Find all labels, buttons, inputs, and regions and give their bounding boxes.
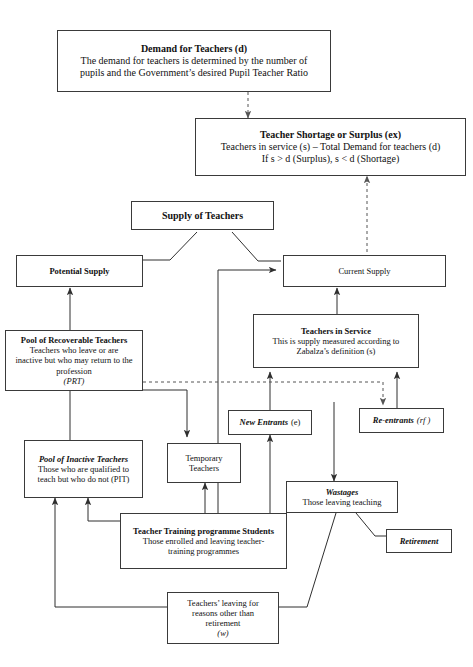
retirement-title: Retirement — [400, 536, 439, 546]
new-entrants-title: New Entrants — [240, 417, 288, 427]
box-potential-supply: Potential Supply — [16, 255, 143, 287]
current-supply-title: Current Supply — [338, 266, 390, 276]
teacher-training-title: Teacher Training programme Students — [133, 526, 274, 536]
pit-line-1: Those who are qualified to — [38, 464, 129, 474]
connector-prt-to-re-entrants — [143, 382, 383, 405]
teachers-in-service-line-1: This is supply measured according to — [273, 336, 400, 346]
box-retirement: Retirement — [386, 529, 452, 553]
re-entrants-symbol: (rf ) — [417, 415, 430, 425]
connector-supply-to-current — [232, 232, 281, 261]
connector-prt-to-temporary — [143, 390, 187, 437]
diagram-canvas: Demand for Teachers (d) The demand for t… — [0, 0, 473, 667]
box-teacher-training-programme-students: Teacher Training programme Students Thos… — [120, 513, 287, 569]
connector-training-to-pit — [88, 498, 120, 521]
wastages-title: Wastages — [326, 487, 358, 497]
leaving-other-line-1: Teachers’ leaving for — [187, 598, 258, 608]
box-temporary-teachers: Temporary Teachers — [167, 443, 241, 483]
box-teachers-in-service: Teachers in Service This is supply measu… — [253, 314, 419, 368]
demand-title: Demand for Teachers (d) — [141, 43, 247, 55]
shortage-line-2: If s > d (Surplus), s < d (Shortage) — [262, 153, 400, 165]
wastages-line-1: Those leaving teaching — [303, 497, 382, 507]
box-new-entrants: New Entrants (e) — [228, 410, 312, 435]
shortage-line-1: Teachers in service (s) – Total Demand f… — [221, 141, 441, 153]
pit-title: Pool of Inactive Teachers — [39, 454, 128, 464]
supply-of-teachers-title: Supply of Teachers — [162, 210, 243, 222]
re-entrants-title: Re-entrants — [373, 415, 414, 425]
demand-line-2: pupils and the Government’s desired Pupi… — [80, 67, 308, 79]
pit-line-2: teach but who do not (PIT) — [38, 474, 130, 484]
box-re-entrants: Re-entrants (rf ) — [359, 408, 444, 433]
box-demand-for-teachers: Demand for Teachers (d) The demand for t… — [57, 30, 331, 92]
box-teacher-shortage-or-surplus: Teacher Shortage or Surplus (ex) Teacher… — [195, 118, 466, 176]
box-leaving-other-than-retirement: Teachers’ leaving for reasons other than… — [167, 592, 279, 644]
temporary-teachers-line-2: Teachers — [189, 463, 219, 473]
box-wastages: Wastages Those leaving teaching — [286, 481, 398, 513]
prt-symbol: (PRT) — [64, 376, 85, 386]
potential-supply-title: Potential Supply — [49, 266, 109, 276]
shortage-title: Teacher Shortage or Surplus (ex) — [260, 129, 401, 141]
teacher-training-line-2: training programmes — [168, 546, 239, 556]
teachers-in-service-line-2: Zabalza’s definition (s) — [297, 346, 376, 356]
prt-line-1: Teachers who leave or are — [30, 345, 119, 355]
leaving-other-line-3: retirement — [206, 618, 241, 628]
connector-wastages-to-leaving — [279, 513, 336, 607]
prt-line-2: inactive but who may return to the — [15, 355, 132, 365]
connector-supply-to-potential — [143, 232, 197, 260]
prt-title: Pool of Recoverable Teachers — [21, 335, 127, 345]
box-supply-of-teachers: Supply of Teachers — [131, 201, 274, 230]
box-pool-of-recoverable-teachers: Pool of Recoverable Teachers Teachers wh… — [5, 330, 143, 391]
prt-line-3: profession — [56, 366, 91, 376]
box-current-supply: Current Supply — [283, 255, 446, 287]
demand-line-1: The demand for teachers is determined by… — [81, 55, 308, 67]
teachers-in-service-title: Teachers in Service — [301, 326, 371, 336]
leaving-other-symbol: (w) — [217, 628, 228, 638]
leaving-other-line-2: reasons other than — [192, 608, 254, 618]
teacher-training-line-1: Those enrolled and leaving teacher- — [143, 536, 265, 546]
temporary-teachers-line-1: Temporary — [185, 453, 222, 463]
box-pool-of-inactive-teachers: Pool of Inactive Teachers Those who are … — [24, 440, 143, 498]
new-entrants-symbol: (e) — [291, 417, 300, 427]
